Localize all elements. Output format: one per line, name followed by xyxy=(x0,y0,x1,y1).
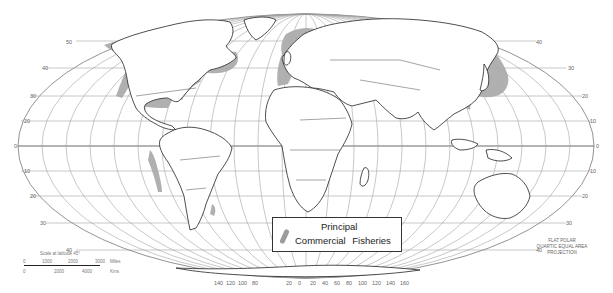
legend-line-1: Principal xyxy=(321,221,357,232)
svg-text:30: 30 xyxy=(566,220,572,226)
svg-text:20: 20 xyxy=(310,280,316,286)
scale-line xyxy=(24,265,100,266)
scale-title: Scale at latitude 45° xyxy=(40,251,80,256)
map-legend: Principal Commercial Fisheries xyxy=(272,217,402,252)
svg-text:30: 30 xyxy=(568,65,574,71)
svg-text:0: 0 xyxy=(298,280,301,286)
svg-text:60: 60 xyxy=(334,280,340,286)
scale-km-0: 0 xyxy=(23,269,26,274)
svg-text:80: 80 xyxy=(346,280,352,286)
svg-text:120: 120 xyxy=(226,280,235,286)
svg-text:40: 40 xyxy=(536,39,542,45)
scale-mile-3000: 3000 xyxy=(95,259,105,264)
svg-text:30: 30 xyxy=(30,93,36,99)
scale-km-2000: 2000 xyxy=(54,269,64,274)
svg-text:10: 10 xyxy=(24,168,30,174)
fishery-swatch-icon xyxy=(279,229,290,245)
scale-km-4000: 4000 xyxy=(82,269,92,274)
svg-text:20: 20 xyxy=(24,118,30,124)
scale-miles-unit: Miles xyxy=(110,259,121,264)
projection-line-3: PROJECTION xyxy=(527,250,597,256)
svg-text:20: 20 xyxy=(582,93,588,99)
svg-text:10: 10 xyxy=(590,168,596,174)
svg-text:100: 100 xyxy=(358,280,367,286)
svg-text:40: 40 xyxy=(322,280,328,286)
svg-text:20: 20 xyxy=(582,193,588,199)
scale-km-unit: Kms xyxy=(110,269,119,274)
scale-bar: Scale at latitude 45° 0 1000 2000 3000 M… xyxy=(18,250,138,280)
svg-text:40: 40 xyxy=(42,65,48,71)
svg-text:100: 100 xyxy=(238,280,247,286)
svg-text:20: 20 xyxy=(286,280,292,286)
svg-text:140: 140 xyxy=(214,280,223,286)
scale-mile-0: 0 xyxy=(23,259,26,264)
svg-text:140: 140 xyxy=(386,280,395,286)
scale-mile-2000: 2000 xyxy=(68,259,78,264)
projection-note: FLAT POLAR QUARTIC EQUAL AREA PROJECTION xyxy=(527,238,597,256)
legend-line-2: Commercial Fisheries xyxy=(295,235,391,246)
svg-text:0: 0 xyxy=(596,143,599,149)
svg-text:30: 30 xyxy=(40,220,46,226)
svg-text:0: 0 xyxy=(14,143,17,149)
svg-text:120: 120 xyxy=(372,280,381,286)
svg-text:160: 160 xyxy=(400,280,409,286)
scale-mile-1000: 1000 xyxy=(42,259,52,264)
svg-text:20: 20 xyxy=(30,193,36,199)
british-isles xyxy=(284,52,291,65)
svg-text:50: 50 xyxy=(66,39,72,45)
longitude-labels-bottom: 140 120 100 80 20 0 20 40 60 80 100 120 … xyxy=(214,280,409,286)
svg-text:80: 80 xyxy=(252,280,258,286)
svg-text:10: 10 xyxy=(590,118,596,124)
